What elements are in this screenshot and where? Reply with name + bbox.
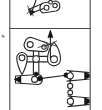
lower-right-lever-joint [67, 98, 73, 104]
left-edge-tick-mark [2, 35, 6, 39]
lower-left-lever-joint [32, 76, 38, 82]
lower-right-arrow-lever [67, 96, 92, 107]
left-teardrop-link [17, 53, 28, 75]
hub-center-joint [33, 56, 40, 63]
hub-bottom-joint [34, 72, 38, 76]
coupler-joint-left [37, 76, 42, 81]
right-teardrop-joint [51, 56, 58, 63]
upper-right-lever-joint [67, 73, 73, 79]
upper-link-joint-b [53, 3, 57, 7]
upper-panel-content [27, 0, 60, 16]
right-rod-joint-low [68, 90, 73, 95]
left-teardrop-joint [19, 55, 25, 61]
upper-link-joint-a [44, 5, 49, 10]
upper-rounded-link-joint-a [27, 42, 33, 48]
figure-frame [0, 0, 102, 110]
coupler-bar-line [40, 75, 66, 78]
upper-rounded-link [24, 37, 48, 51]
right-rod-joint-mid [68, 83, 73, 88]
lower-panel-content [14, 30, 93, 107]
upper-small-joint [49, 0, 53, 4]
linkage-diagram-canvas [0, 0, 102, 110]
spike-arrowhead [48, 30, 53, 38]
upper-right-arrow-lever [67, 71, 93, 82]
